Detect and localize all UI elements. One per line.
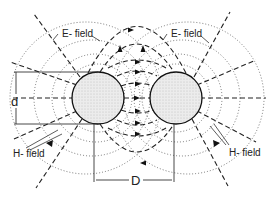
e-field-label-right: E- field — [171, 28, 202, 39]
e-field-label-left: E- field — [62, 28, 93, 39]
left-conductor — [72, 72, 124, 124]
e-field-lines — [10, 12, 266, 188]
h-field-leader-right — [210, 124, 229, 145]
two-wire-field-diagram: d D E- field E- field H- field H- field — [0, 0, 272, 198]
h-field-leader-left — [26, 130, 62, 150]
h-field-label-right: H- field — [229, 147, 261, 158]
e-field-leader-left — [53, 34, 58, 40]
right-conductor — [150, 72, 202, 124]
dimension-d-label: d — [11, 94, 18, 109]
e-field-leader-right — [163, 34, 167, 40]
h-field-label-left: H- field — [13, 148, 45, 159]
dimension-D-label: D — [131, 173, 140, 188]
